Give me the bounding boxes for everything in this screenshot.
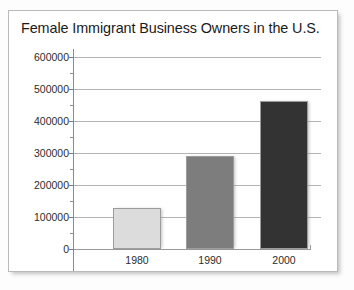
y-axis-major-tick	[69, 89, 74, 90]
x-axis-tick-label: 1990	[198, 254, 221, 266]
x-axis-tick-label: 1980	[125, 254, 148, 266]
y-axis-tick-label: 100000	[34, 211, 69, 223]
y-axis-tick-label: 300000	[34, 147, 69, 159]
y-axis-tick-label: 500000	[34, 83, 69, 95]
y-axis-minor-tick	[70, 137, 73, 138]
y-axis-major-tick	[69, 249, 74, 250]
x-axis-tick-label: 2000	[272, 254, 295, 266]
x-axis-end-cap	[310, 245, 311, 250]
chart-card: Female Immigrant Business Owners in the …	[8, 10, 338, 272]
y-axis-major-tick	[69, 217, 74, 218]
y-axis-major-tick	[69, 57, 74, 58]
chart-title: Female Immigrant Business Owners in the …	[21, 19, 333, 37]
y-axis-tick-labels: 0100000200000300000400000500000600000	[9, 49, 69, 271]
gridline	[73, 249, 311, 250]
plot-area: 0100000200000300000400000500000600000 19…	[9, 49, 339, 271]
y-axis-major-tick	[69, 121, 74, 122]
gridline	[73, 57, 321, 58]
bar-2000	[260, 101, 308, 249]
bar-1980	[113, 208, 161, 249]
y-axis-major-tick	[69, 185, 74, 186]
y-axis-major-tick	[69, 153, 74, 154]
bar-1990	[186, 156, 234, 249]
y-axis-line	[73, 49, 74, 271]
y-axis-minor-tick	[70, 233, 73, 234]
axes: 198019902000	[73, 49, 339, 271]
y-axis-minor-tick	[70, 73, 73, 74]
y-axis-minor-tick	[70, 201, 73, 202]
y-axis-tick-label: 600000	[34, 51, 69, 63]
y-axis-tick-label: 200000	[34, 179, 69, 191]
y-axis-tick-label: 400000	[34, 115, 69, 127]
scanned-page: Female Immigrant Business Owners in the …	[0, 0, 354, 290]
y-axis-minor-tick	[70, 105, 73, 106]
y-axis-minor-tick	[70, 169, 73, 170]
gridline	[73, 89, 321, 90]
